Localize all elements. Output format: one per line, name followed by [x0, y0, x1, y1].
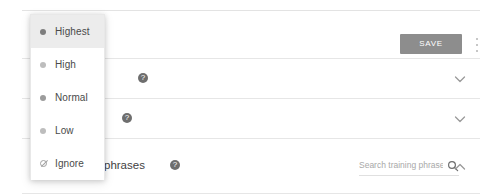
ban-icon [40, 160, 47, 167]
dropdown-item-high[interactable]: High [31, 48, 104, 81]
search-input[interactable] [359, 157, 443, 173]
dropdown-item-low[interactable]: Low [31, 114, 104, 147]
priority-bullet-icon [40, 62, 46, 68]
dot-1 [476, 38, 478, 40]
priority-bullet-icon [40, 29, 46, 35]
search-training-phrases [359, 157, 459, 176]
help-icon[interactable]: ? [138, 73, 148, 83]
help-icon[interactable]: ? [170, 160, 180, 170]
priority-dropdown-menu: Highest High Normal Low Ignore [30, 14, 105, 180]
dropdown-item-highest[interactable]: Highest [31, 15, 104, 48]
dropdown-item-label: Ignore [55, 158, 84, 169]
priority-bullet-icon [40, 95, 46, 101]
dropdown-item-label: High [55, 59, 76, 70]
dropdown-item-normal[interactable]: Normal [31, 81, 104, 114]
priority-bullet-icon [40, 128, 46, 134]
dropdown-item-label: Highest [55, 26, 90, 37]
chevron-down-icon[interactable] [452, 111, 468, 127]
dropdown-item-label: Low [55, 125, 74, 136]
chevron-up-icon[interactable] [452, 159, 468, 175]
dropdown-item-label: Normal [55, 92, 88, 103]
section-3-label: phrases [104, 159, 145, 171]
chevron-down-icon[interactable] [452, 71, 468, 87]
save-button[interactable]: SAVE [400, 34, 462, 54]
help-icon[interactable]: ? [122, 113, 132, 123]
dot-2 [476, 44, 478, 46]
app-screen: SAVE ? ? phrases ? [0, 0, 503, 194]
name-input-field[interactable] [104, 24, 354, 46]
dropdown-item-ignore[interactable]: Ignore [31, 147, 104, 180]
top-divider [22, 10, 480, 11]
more-options-icon[interactable] [470, 37, 484, 53]
dot-3 [476, 50, 478, 52]
